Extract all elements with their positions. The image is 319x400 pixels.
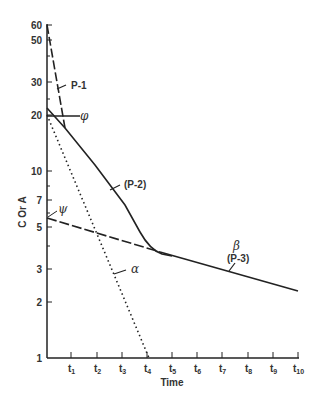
p3-label: (P-3) [227,253,249,264]
x-tick-label: t8 [245,363,252,375]
alpha-label: α [131,262,139,276]
beta-extrapolation-line [47,218,160,252]
x-tick-label: t2 [94,363,101,375]
y-axis-title: C Or A [17,196,28,227]
alpha-line [47,115,149,358]
chart-canvas: 60 50 30 20 10 7 5 3 2 1 C Or A t1 t2 t3… [0,0,319,400]
y-tick-label: 20 [31,110,43,121]
y-tick-label: 5 [36,222,42,233]
x-axis-title: Time [160,377,184,388]
y-tick-label: 2 [36,297,42,308]
p1-line [47,25,65,128]
p3-leader [229,263,235,271]
x-ticks [71,352,298,358]
x-tick-label: t1 [68,363,75,375]
alpha-leader [114,270,126,274]
x-tick-label: t9 [270,363,277,375]
x-tick-label: t7 [219,363,226,375]
phi-label: φ [80,109,89,123]
y-tick-label: 60 [31,20,43,31]
y-tick-label: 3 [36,264,42,275]
x-tick-label: t10 [293,363,304,375]
x-tick-label: t3 [119,363,126,375]
y-tick-label: 7 [36,195,42,206]
p1-label: P-1 [71,80,87,91]
y-tick-labels: 60 50 30 20 10 7 5 3 2 1 [31,20,43,364]
p2-curve [47,108,172,256]
y-tick-label: 1 [36,353,42,364]
x-tick-label: t5 [169,363,176,375]
x-tick-labels: t1 t2 t3 t4 t5 t6 t7 t8 t9 t10 [68,363,304,375]
y-tick-label: 50 [31,35,43,46]
psi-leader [48,211,57,217]
psi-label: ψ [58,202,68,216]
beta-label: β [232,239,240,253]
y-tick-label: 30 [31,77,43,88]
p2-label: (P-2) [124,179,146,190]
x-tick-label: t4 [144,363,151,375]
y-tick-label: 10 [31,166,43,177]
x-tick-label: t6 [194,363,201,375]
